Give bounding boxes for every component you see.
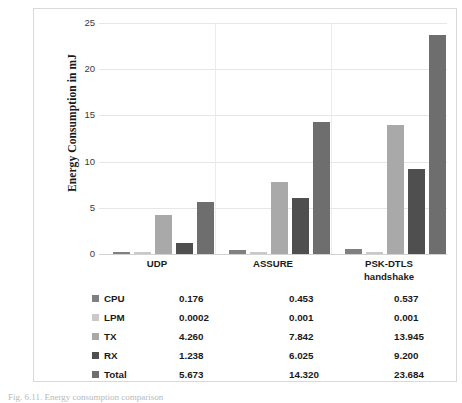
table-cell-value: 1.238 [179,346,204,365]
bar-cpu-3 [345,249,362,254]
y-tick-label-10: 10 [55,156,95,167]
x-axis-label-2: ASSURE [215,258,331,271]
bar-cpu-2 [229,250,246,254]
table-cell-value: 13.945 [394,327,424,346]
table-cell-value: 9.200 [394,346,419,365]
bar-cpu-1 [113,252,130,254]
legend-label: TX [104,331,117,342]
bar-group [331,23,447,254]
table-row: TX4.2607.84213.945 [54,327,454,346]
x-axis-label-line2: handshake [331,271,447,284]
x-axis-labels: UDPASSUREPSK-DTLShandshake [99,258,447,288]
table-row: LPM0.00020.0010.001 [54,308,454,327]
table-cell-value: 0.001 [394,308,419,327]
legend-label: Total [104,369,127,380]
table-cell-value: 0.537 [394,289,419,308]
y-tick-label-15: 15 [55,109,95,120]
bar-lpm-1 [134,252,151,254]
bar-total-2 [313,122,330,254]
y-axis-title: Energy Consumption in mJ [66,23,78,223]
figure-caption: Fig. 6.11. Energy consumption comparison [8,392,458,403]
table-cell-value: 6.025 [289,346,314,365]
bar-group [99,23,215,254]
legend-entry: TX [92,327,117,346]
bar-lpm-3 [366,252,383,254]
legend-entry: Total [92,365,127,384]
table-cell-value: 0.0002 [179,308,209,327]
legend-label: RX [104,350,118,361]
bar-lpm-2 [250,252,267,254]
data-table: CPU0.1760.4530.537LPM0.00020.0010.001TX4… [54,289,454,384]
bar-tx-2 [271,182,288,254]
legend-swatch-icon [92,371,99,378]
plot-area: 0510152025 [99,23,447,254]
legend-swatch-icon [92,333,99,340]
legend-entry: LPM [92,308,125,327]
bar-rx-2 [292,198,309,254]
bar-rx-3 [408,169,425,254]
legend-swatch-icon [92,295,99,302]
legend-entry: CPU [92,289,125,308]
x-axis-label-3: PSK-DTLShandshake [331,258,447,283]
chart-frame: Energy Consumption in mJ 0510152025 UDPA… [33,8,457,382]
bar-total-1 [197,202,214,254]
table-cell-value: 0.176 [179,289,204,308]
table-cell-value: 23.684 [394,365,424,384]
table-cell-value: 4.260 [179,327,204,346]
x-axis-label-line1: UDP [99,258,215,271]
table-row: Total5.67314.32023.684 [54,365,454,384]
y-tick-label-0: 0 [55,248,95,259]
legend-label: LPM [104,312,125,323]
bar-tx-1 [155,215,172,254]
table-cell-value: 0.453 [289,289,314,308]
table-row: CPU0.1760.4530.537 [54,289,454,308]
y-tick-label-25: 25 [55,17,95,28]
table-cell-value: 5.673 [179,365,204,384]
x-axis-label-line1: PSK-DTLS [331,258,447,271]
table-row: RX1.2386.0259.200 [54,346,454,365]
legend-swatch-icon [92,314,99,321]
legend-swatch-icon [92,352,99,359]
bars-layer [99,23,447,254]
y-tick-label-20: 20 [55,63,95,74]
table-cell-value: 7.842 [289,327,314,346]
table-cell-value: 0.001 [289,308,314,327]
legend-label: CPU [104,293,125,304]
legend-entry: RX [92,346,118,365]
y-tick-label-5: 5 [55,202,95,213]
gridline-0 [99,254,447,255]
x-axis-label-1: UDP [99,258,215,271]
figure-container: Energy Consumption in mJ 0510152025 UDPA… [0,0,462,403]
table-cell-value: 14.320 [289,365,319,384]
bar-tx-3 [387,125,404,254]
bar-group [215,23,331,254]
bar-total-3 [429,35,446,254]
bar-rx-1 [176,243,193,254]
x-axis-label-line1: ASSURE [215,258,331,271]
